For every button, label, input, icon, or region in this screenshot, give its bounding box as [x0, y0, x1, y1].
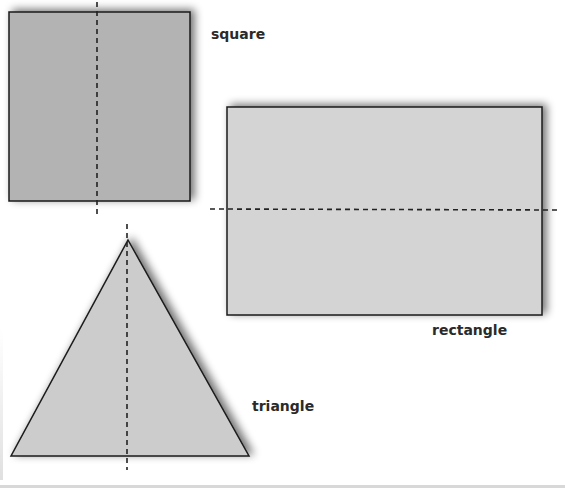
square-label: square [211, 26, 265, 42]
rectangle-shape [210, 107, 558, 315]
symmetry-figure: square rectangle triangle [0, 0, 565, 488]
shapes-canvas [0, 0, 565, 488]
page-edge-left [0, 330, 3, 480]
square-shape [9, 2, 190, 216]
rectangle-label: rectangle [432, 322, 507, 338]
triangle-label: triangle [252, 398, 314, 414]
triangle-shape [11, 224, 249, 470]
